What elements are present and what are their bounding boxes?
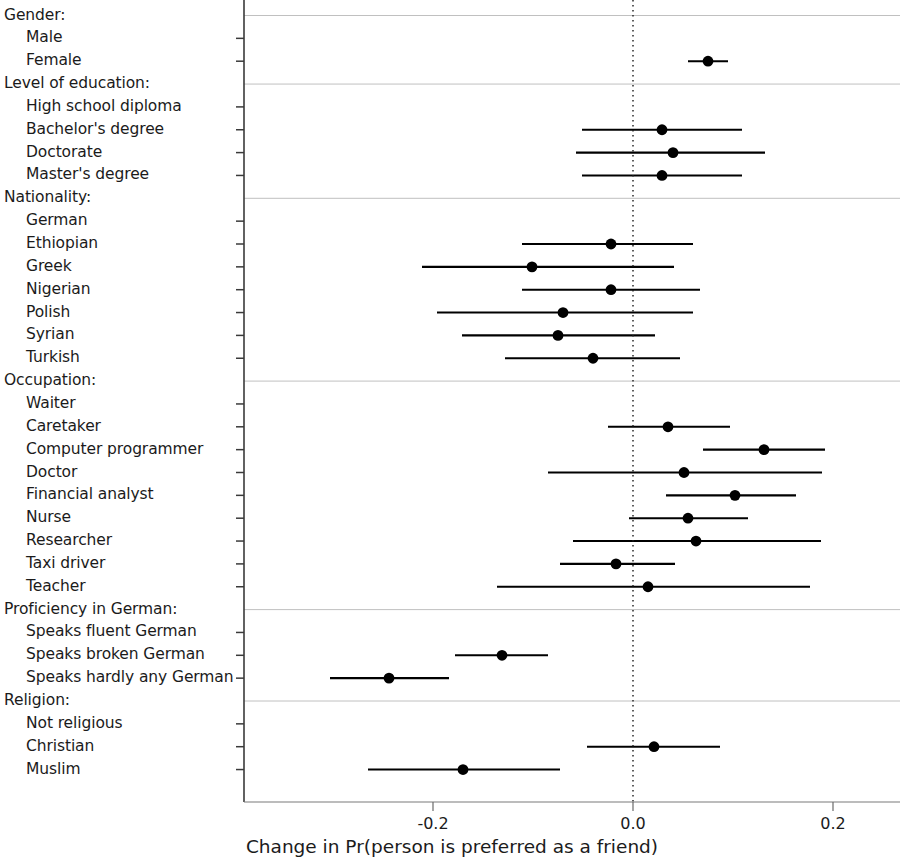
estimate-point (588, 353, 599, 364)
level-label: Researcher (26, 533, 112, 549)
level-label: Doctorate (26, 145, 102, 161)
estimate-point (679, 467, 690, 478)
level-label: Taxi driver (26, 556, 105, 572)
x-axis-title: Change in Pr(person is preferred as a fr… (0, 836, 904, 857)
level-label: Syrian (26, 327, 74, 343)
level-label: Nigerian (26, 282, 90, 298)
estimate-point (497, 650, 508, 661)
estimate-point (759, 444, 770, 455)
level-label: Waiter (26, 396, 76, 412)
level-label: High school diploma (26, 99, 182, 115)
group-header-label: Nationality: (4, 190, 91, 206)
estimate-point (663, 421, 674, 432)
level-label: Muslim (26, 762, 80, 778)
level-label: Bachelor's degree (26, 122, 164, 138)
group-header-label: Religion: (4, 693, 70, 709)
estimate-point (649, 741, 660, 752)
level-label: Christian (26, 739, 94, 755)
estimate-point (553, 330, 564, 341)
estimate-point (558, 307, 569, 318)
x-tick-label: 0.2 (820, 814, 845, 833)
estimate-point (683, 513, 694, 524)
level-label: Ethiopian (26, 236, 98, 252)
estimate-point (606, 284, 617, 295)
level-label: Female (26, 53, 81, 69)
estimate-point (703, 56, 714, 67)
level-label: Doctor (26, 465, 77, 481)
plot-panel-background (244, 0, 900, 802)
level-label: Greek (26, 259, 72, 275)
group-header-label: Gender: (4, 8, 65, 24)
level-label: Speaks fluent German (26, 624, 197, 640)
level-label: German (26, 213, 87, 229)
level-label: Master's degree (26, 167, 149, 183)
level-label: Financial analyst (26, 487, 154, 503)
estimate-point (606, 239, 617, 250)
level-label: Speaks hardly any German (26, 670, 233, 686)
group-header-label: Occupation: (4, 373, 96, 389)
level-label: Caretaker (26, 419, 101, 435)
estimate-point (668, 147, 679, 158)
level-label: Teacher (26, 579, 85, 595)
level-label: Speaks broken German (26, 647, 205, 663)
x-tick-label: -0.2 (417, 814, 448, 833)
estimate-point (458, 764, 469, 775)
estimate-point (730, 490, 741, 501)
coefficient-plot: Gender:MaleFemaleLevel of education:High… (0, 0, 904, 866)
group-header-label: Level of education: (4, 76, 150, 92)
level-label: Computer programmer (26, 442, 203, 458)
estimate-point (527, 261, 538, 272)
level-label: Turkish (26, 350, 80, 366)
estimate-point (657, 124, 668, 135)
group-header-label: Proficiency in German: (4, 602, 177, 618)
x-tick-label: 0.0 (620, 814, 645, 833)
estimate-point (657, 170, 668, 181)
estimate-point (611, 559, 622, 570)
level-label: Nurse (26, 510, 71, 526)
level-label: Male (26, 30, 62, 46)
estimate-point (643, 581, 654, 592)
level-label: Not religious (26, 716, 123, 732)
estimate-point (691, 536, 702, 547)
estimate-point (384, 673, 395, 684)
level-label: Polish (26, 305, 70, 321)
